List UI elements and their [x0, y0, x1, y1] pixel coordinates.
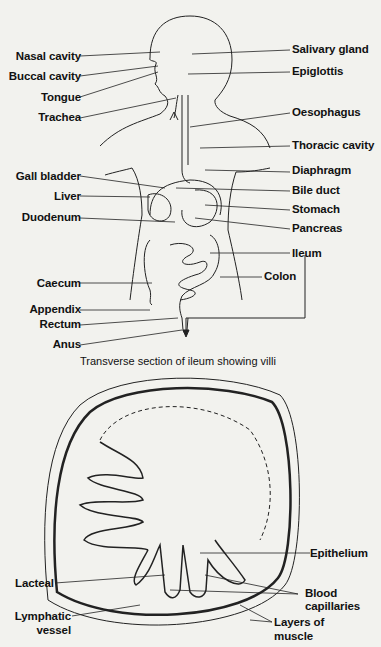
label-blood-line2: capillaries — [305, 600, 360, 613]
label-bile-duct: Bile duct — [292, 184, 340, 197]
label-oesophagus: Oesophagus — [292, 106, 361, 119]
label-thoracic-cavity: Thoracic cavity — [292, 139, 374, 152]
label-buccal-cavity: Buccal cavity — [9, 70, 81, 83]
label-pancreas: Pancreas — [292, 222, 342, 235]
label-appendix: Appendix — [29, 303, 81, 316]
label-muscle-line2: muscle — [274, 630, 313, 643]
label-stomach: Stomach — [292, 203, 340, 216]
label-trachea: Trachea — [38, 111, 81, 124]
label-epiglottis: Epiglottis — [292, 65, 343, 78]
label-salivary-gland: Salivary gland — [292, 43, 369, 56]
label-blood-line1: Blood — [305, 587, 337, 600]
label-liver: Liver — [54, 190, 81, 203]
label-lacteal: Lacteal — [15, 577, 54, 590]
label-tongue: Tongue — [41, 91, 81, 104]
label-rectum: Rectum — [39, 318, 81, 331]
section-caption: Transverse section of ileum showing vill… — [80, 355, 276, 367]
label-lymphatic-line1: Lymphatic — [15, 610, 71, 623]
label-caecum: Caecum — [37, 277, 81, 290]
label-anus: Anus — [53, 338, 81, 351]
label-colon: Colon — [264, 270, 296, 283]
label-epithelium: Epithelium — [310, 547, 368, 560]
label-ileum: Ileum — [292, 247, 322, 260]
label-duodenum: Duodenum — [22, 211, 81, 224]
label-gall-bladder: Gall bladder — [16, 170, 81, 183]
label-muscle-line1: Layers of — [274, 616, 324, 629]
label-diaphragm: Diaphragm — [292, 164, 351, 177]
label-lymphatic-line2: vessel — [36, 624, 71, 637]
label-nasal-cavity: Nasal cavity — [16, 50, 81, 63]
